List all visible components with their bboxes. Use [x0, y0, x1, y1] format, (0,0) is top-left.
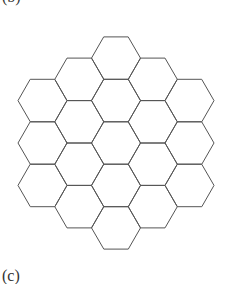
- hexagonal-cell: [128, 185, 177, 228]
- hexagonal-cell: [128, 58, 177, 101]
- hexagonal-cell: [165, 79, 214, 122]
- hexagonal-cell: [165, 122, 214, 164]
- hexagonal-cell: [92, 79, 141, 122]
- hexagonal-cell: [128, 101, 177, 143]
- hexagonal-cell: [55, 58, 104, 101]
- hexagonal-cell: [18, 79, 67, 122]
- hexagonal-cell: [165, 164, 214, 207]
- hexagonal-cell: [18, 122, 67, 164]
- hexagonal-cell: [55, 143, 104, 185]
- hexagonal-cell: [55, 185, 104, 228]
- hexagonal-cell: [18, 164, 67, 207]
- hexagonal-cell: [92, 207, 141, 249]
- cell-polygons: [18, 37, 214, 249]
- hexagonal-cell: [92, 164, 141, 207]
- hexagonal-cell: [92, 122, 141, 164]
- hexagonal-cell: [92, 37, 141, 79]
- hexagonal-cell: [128, 143, 177, 185]
- hexagonal-cell: [55, 101, 104, 143]
